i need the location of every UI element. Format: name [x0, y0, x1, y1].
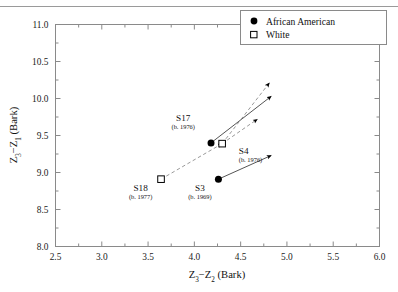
major-tick-marks	[56, 25, 380, 247]
data-point-labels: S17(b. 1976)S3(b. 1969)S4(b. 1976)S18(b.…	[129, 113, 262, 201]
scatter-plot-figure: 2.53.03.54.04.55.05.56.0 8.08.59.09.510.…	[0, 0, 398, 292]
y-axis-tick-labels: 8.08.59.09.510.010.511.0	[32, 20, 49, 252]
trajectory-lines	[161, 83, 271, 179]
point-label-s4: S4	[239, 146, 249, 156]
legend-item-label-african-american: African American	[266, 16, 335, 27]
x-tick-label: 4.0	[188, 252, 200, 262]
x-tick-label: 2.5	[50, 252, 62, 262]
point-sublabel-s4: (b. 1976)	[239, 156, 262, 164]
x-tick-label: 4.5	[235, 252, 247, 262]
y-tick-label: 11.0	[32, 20, 48, 30]
point-sublabel-s3: (b. 1969)	[188, 193, 211, 201]
y-axis-title-group: Z3−Z1 (Bark)	[8, 106, 23, 163]
point-sublabel-s18: (b. 1977)	[129, 193, 152, 201]
y-tick-label: 9.0	[37, 168, 49, 178]
marker-filled-circle-s3[interactable]	[215, 176, 222, 183]
point-label-s18: S18	[134, 183, 149, 193]
legend: African American White	[241, 11, 387, 45]
marker-filled-circle-s17[interactable]	[208, 139, 215, 146]
legend-item-label-white: White	[266, 29, 289, 40]
trajectory-arrow-s4	[222, 119, 257, 143]
marker-open-square-s18[interactable]	[158, 176, 165, 183]
data-point-markers	[158, 139, 226, 182]
y-tick-label: 9.5	[37, 131, 49, 141]
y-tick-label: 8.5	[37, 205, 49, 215]
legend-marker-open-square-icon	[251, 31, 257, 37]
marker-open-square-s4[interactable]	[219, 140, 226, 147]
y-axis-title: Z3−Z1 (Bark)	[8, 106, 23, 163]
plot-frame	[56, 25, 380, 247]
trajectory-arrow-s4	[222, 83, 269, 144]
point-sublabel-s17: (b. 1976)	[172, 123, 195, 131]
minor-tick-marks	[56, 25, 380, 247]
point-label-s17: S17	[176, 113, 191, 123]
x-tick-label: 3.0	[96, 252, 108, 262]
x-axis-tick-labels: 2.53.03.54.04.55.05.56.0	[50, 252, 386, 262]
legend-marker-filled-circle-icon	[251, 18, 258, 25]
y-tick-label: 10.0	[32, 94, 49, 104]
chart-canvas: 2.53.03.54.04.55.05.56.0 8.08.59.09.510.…	[0, 0, 398, 292]
x-axis-title: Z3−Z2 (Bark)	[189, 269, 246, 284]
x-tick-label: 5.0	[281, 252, 293, 262]
x-tick-label: 6.0	[374, 252, 386, 262]
x-tick-label: 3.5	[142, 252, 154, 262]
y-tick-label: 10.5	[32, 57, 49, 67]
trajectory-arrow-s18	[161, 144, 222, 180]
x-tick-label: 5.5	[327, 252, 339, 262]
point-label-s3: S3	[195, 183, 205, 193]
y-tick-label: 8.0	[37, 242, 49, 252]
